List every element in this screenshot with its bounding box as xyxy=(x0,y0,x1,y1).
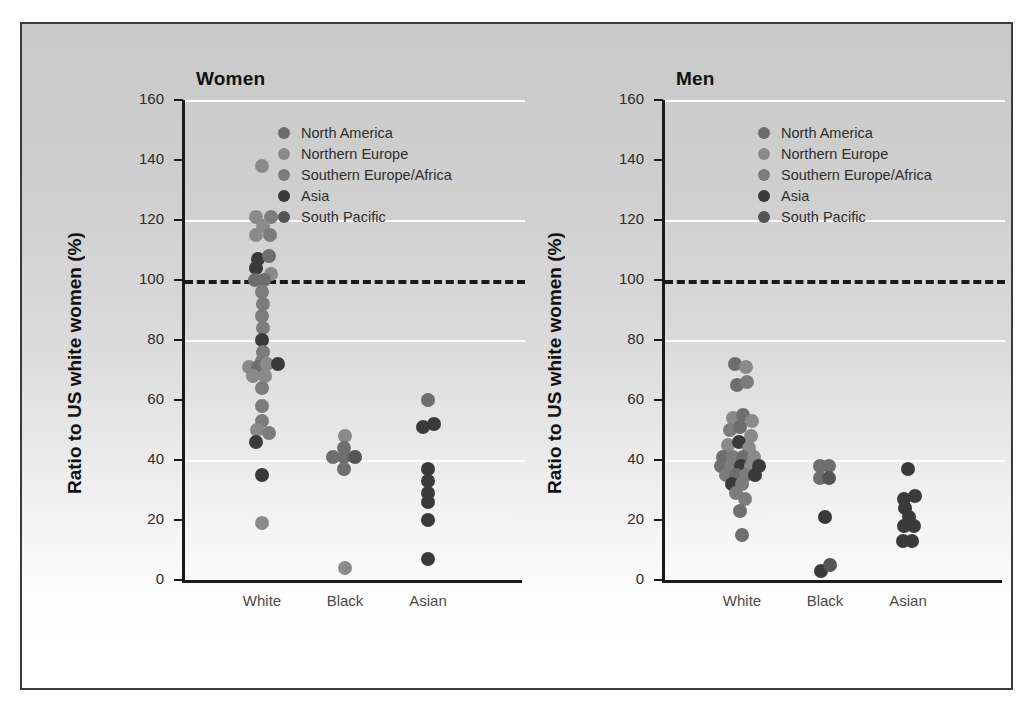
data-point xyxy=(822,471,836,485)
data-point xyxy=(337,462,351,476)
figure-frame: WomenRatio to US white women (%)02040608… xyxy=(20,22,1013,690)
panel-women: WomenRatio to US white women (%)02040608… xyxy=(22,24,522,688)
data-point xyxy=(427,417,441,431)
data-point xyxy=(421,393,435,407)
data-point xyxy=(255,159,269,173)
data-point xyxy=(908,489,922,503)
data-point xyxy=(348,450,362,464)
scatter-points xyxy=(22,24,522,688)
data-point xyxy=(262,426,276,440)
data-point xyxy=(262,249,276,263)
data-point xyxy=(263,228,277,242)
data-point xyxy=(745,414,759,428)
data-point xyxy=(249,228,263,242)
data-point xyxy=(249,435,263,449)
data-point xyxy=(271,357,285,371)
data-point xyxy=(740,375,754,389)
data-point xyxy=(905,534,919,548)
data-point xyxy=(255,468,269,482)
data-point xyxy=(739,360,753,374)
data-point xyxy=(421,552,435,566)
scatter-points xyxy=(502,24,1002,688)
data-point xyxy=(421,513,435,527)
data-point xyxy=(907,519,921,533)
panel-men: MenRatio to US white women (%)0204060801… xyxy=(502,24,1002,688)
data-point xyxy=(823,558,837,572)
data-point xyxy=(255,516,269,530)
data-point xyxy=(901,462,915,476)
data-point xyxy=(733,504,747,518)
data-point xyxy=(337,441,351,455)
data-point xyxy=(255,399,269,413)
data-point xyxy=(818,510,832,524)
data-point xyxy=(338,561,352,575)
data-point xyxy=(748,468,762,482)
data-point xyxy=(255,381,269,395)
data-point xyxy=(735,528,749,542)
data-point xyxy=(421,495,435,509)
